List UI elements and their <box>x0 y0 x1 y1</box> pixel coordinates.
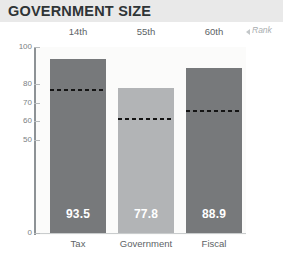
y-axis-tick-mark <box>34 121 40 122</box>
y-axis-tick-label: 80 <box>12 80 32 88</box>
rank-label-government: 55th <box>118 26 174 37</box>
y-axis-tick-label: 100 <box>12 43 32 51</box>
rank-label-fiscal: 60th <box>186 26 242 37</box>
y-axis-tick-mark <box>34 84 40 85</box>
bar-value-label: 77.8 <box>118 207 174 221</box>
reference-line <box>118 118 174 120</box>
y-axis-tick-mark <box>34 47 40 48</box>
reference-line <box>50 89 106 91</box>
bar-government[interactable]: 77.8 <box>118 88 174 233</box>
bar-value-label: 93.5 <box>50 207 106 221</box>
x-axis-label-tax: Tax <box>50 238 106 249</box>
y-axis-tick-label: 50 <box>12 136 32 144</box>
rank-note-label: Rank <box>252 25 272 35</box>
chart-panel: GOVERNMENT SIZE Rank 100807060500 93.577… <box>0 0 283 255</box>
x-axis-baseline <box>34 233 246 234</box>
y-axis-tick-label: 0 <box>12 229 32 237</box>
y-axis-line <box>34 47 36 235</box>
page-title: GOVERNMENT SIZE <box>8 3 151 19</box>
bar-value-label: 88.9 <box>186 207 242 221</box>
triangle-left-icon <box>246 29 250 35</box>
bar-tax[interactable]: 93.5 <box>50 59 106 233</box>
bar-fiscal[interactable]: 88.9 <box>186 68 242 233</box>
rank-label-tax: 14th <box>50 26 106 37</box>
y-axis-tick-mark <box>34 140 40 141</box>
x-axis-label-fiscal: Fiscal <box>186 238 242 249</box>
x-axis-label-government: Government <box>118 238 174 249</box>
y-axis-tick-label: 70 <box>12 99 32 107</box>
y-axis-tick-mark <box>34 103 40 104</box>
y-axis-tick-label: 60 <box>12 117 32 125</box>
y-axis-tick-mark <box>34 233 40 234</box>
reference-line <box>186 110 242 112</box>
